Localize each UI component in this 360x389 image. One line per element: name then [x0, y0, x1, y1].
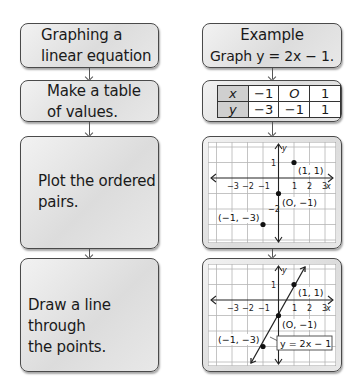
tick-label: 2: [307, 304, 312, 313]
line-equation-label: y = 2x − 1: [280, 338, 331, 349]
step-text: Plot the ordered pairs.: [38, 171, 156, 213]
table-row-x: x −1 O 1: [218, 86, 341, 102]
point-label: (1, 1): [298, 287, 324, 298]
tick-label: 1: [292, 182, 297, 191]
table-cell: O: [279, 86, 310, 102]
point-label: (O, −1): [282, 319, 317, 330]
point-neg1-neg3: [260, 222, 265, 227]
point-0-neg1: [276, 313, 281, 318]
tick-label: 3: [322, 304, 327, 313]
example-box: Example Graph y = 2x − 1.: [202, 23, 342, 68]
table-cell: 1: [310, 86, 341, 102]
step-line1: Make a table: [47, 81, 141, 102]
table-row-y: y −3 −1 1: [218, 102, 341, 118]
tick-label: −2: [242, 182, 254, 191]
step-box-table: Make a table of values.: [20, 80, 159, 122]
point-label: (1, 1): [298, 165, 324, 176]
step-line1: Graphing a: [41, 25, 151, 46]
point-label: (−1, −3): [218, 212, 259, 223]
graph-box-plot: x y −3 −2 −1 1 2 3 1 −2 (1, 1) (O, −1) (…: [202, 136, 342, 249]
table-cell: 1: [310, 102, 341, 118]
point-label: (O, −1): [282, 197, 317, 208]
point-label: (−1, −3): [218, 334, 259, 345]
tick-label: 1: [271, 281, 276, 290]
tick-label: −3: [227, 304, 239, 313]
y-axis-label: y: [281, 266, 287, 275]
step-text: Draw a line through the points.: [28, 295, 158, 358]
table-cell: −1: [248, 86, 279, 102]
tick-label: 3: [322, 182, 327, 191]
arrow-down-icon: [272, 122, 273, 135]
coordinate-grid-plot: x y −3 −2 −1 1 2 3 1 −2 (1, 1) (O, −1) (…: [208, 142, 336, 243]
step-box-plot: Plot the ordered pairs.: [20, 136, 159, 249]
step-text: Make a table of values.: [47, 81, 141, 123]
arrow-down-icon: [272, 68, 273, 79]
point-1-1: [291, 282, 296, 287]
graph-box-line: x y −3 −2 −1 1 2 3 1 (1, 1) (O, −1) (−1,…: [202, 258, 342, 372]
table-cell: −1: [279, 102, 310, 118]
arrow-down-icon: [89, 68, 90, 79]
arrow-down-icon: [272, 249, 273, 257]
table-header-y: y: [218, 102, 249, 118]
table-box: x −1 O 1 y −3 −1 1: [202, 80, 342, 122]
table-cell: −3: [248, 102, 279, 118]
example-equation: Graph y = 2x − 1.: [203, 46, 341, 67]
tick-label: −1: [258, 182, 270, 191]
coordinate-grid-line: x y −3 −2 −1 1 2 3 1 (1, 1) (O, −1) (−1,…: [208, 264, 336, 366]
y-axis-label: y: [281, 144, 287, 153]
line-equation-callout: y = 2x − 1: [270, 336, 332, 350]
tick-label: 1: [292, 304, 297, 313]
step-line2: linear equation: [41, 46, 151, 67]
arrow-down-icon: [89, 249, 90, 257]
tick-label: 2: [307, 182, 312, 191]
tick-label: −2: [242, 304, 254, 313]
step-box-draw-line: Draw a line through the points.: [20, 258, 159, 372]
point-0-neg1: [276, 191, 281, 196]
step-line2: pairs.: [38, 192, 156, 213]
step-text: Graphing a linear equation: [41, 25, 151, 67]
tick-label: −1: [258, 304, 270, 313]
step-line2: the points.: [28, 337, 158, 358]
point-neg1-neg3: [260, 344, 265, 349]
tick-label: −3: [227, 182, 239, 191]
step-line1: Draw a line through: [28, 295, 158, 337]
values-table: x −1 O 1 y −3 −1 1: [217, 85, 341, 118]
tick-label: −2: [268, 205, 280, 214]
step-line2: of values.: [47, 102, 141, 123]
table-header-x: x: [218, 86, 249, 102]
point-1-1: [291, 160, 296, 165]
step-box-graphing: Graphing a linear equation: [20, 23, 159, 68]
tick-label: 1: [271, 159, 276, 168]
example-text: Example Graph y = 2x − 1.: [203, 25, 341, 67]
step-line1: Plot the ordered: [38, 171, 156, 192]
arrow-down-icon: [89, 122, 90, 135]
example-title: Example: [203, 25, 341, 46]
